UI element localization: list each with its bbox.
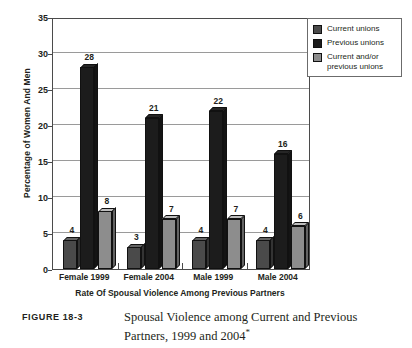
chart-legend: Current unionsPrevious unionsCurrent and… bbox=[307, 18, 402, 77]
figure-caption: FIGURE 18-3 Spousal Violence among Curre… bbox=[0, 310, 412, 348]
bar-value-label: 6 bbox=[287, 211, 313, 221]
y-axis-tick-mark bbox=[48, 270, 52, 271]
figure-container: Percentage of Women And Men 051015202530… bbox=[0, 0, 412, 348]
bar[interactable] bbox=[80, 67, 94, 269]
legend-item-label: Previous unions bbox=[327, 38, 384, 48]
bar[interactable] bbox=[63, 240, 77, 269]
x-axis-tick-mark bbox=[118, 263, 119, 269]
bar-front-face bbox=[145, 118, 159, 269]
bar[interactable] bbox=[192, 240, 206, 269]
bar-value-label: 21 bbox=[141, 103, 167, 113]
bar-front-face bbox=[227, 219, 241, 269]
y-axis-tick-label: 35 bbox=[26, 13, 48, 23]
bar[interactable] bbox=[127, 247, 141, 269]
legend-item[interactable]: Current unions bbox=[313, 24, 397, 34]
plot-area: 4288321742274166 bbox=[52, 18, 310, 270]
legend-swatch-icon bbox=[313, 53, 322, 62]
x-axis-category-labels: Female 1999Female 2004Male 1999Male 2004 bbox=[52, 272, 310, 286]
bar-value-label: 7 bbox=[223, 204, 249, 214]
bar-value-label: 8 bbox=[94, 196, 120, 206]
x-axis-category-label: Male 2004 bbox=[246, 272, 311, 282]
bar-front-face bbox=[192, 240, 206, 269]
bar-front-face bbox=[98, 211, 112, 269]
y-axis-tick-label: 25 bbox=[26, 85, 48, 95]
bar[interactable] bbox=[256, 240, 270, 269]
bar-front-face bbox=[274, 154, 288, 269]
bar-value-label: 22 bbox=[205, 96, 231, 106]
legend-swatch-icon bbox=[313, 39, 322, 48]
bar[interactable] bbox=[145, 118, 159, 269]
plot-inner: 4288321742274166 bbox=[53, 19, 309, 269]
bar-value-label: 28 bbox=[76, 52, 102, 62]
bar-front-face bbox=[256, 240, 270, 269]
bar[interactable] bbox=[162, 219, 176, 269]
bar-front-face bbox=[80, 67, 94, 269]
y-axis-tick-label: 30 bbox=[26, 49, 48, 59]
legend-item[interactable]: Current and/or previous unions bbox=[313, 52, 397, 71]
y-axis-tick-label: 10 bbox=[26, 193, 48, 203]
bar-side-face bbox=[241, 215, 245, 269]
y-axis-tick-label: 20 bbox=[26, 121, 48, 131]
figure-number-label: FIGURE 18-3 bbox=[22, 312, 83, 322]
legend-item-label: Current and/or previous unions bbox=[327, 52, 397, 71]
bar-side-face bbox=[112, 208, 116, 269]
x-axis-category-label: Male 1999 bbox=[181, 272, 246, 282]
bar[interactable] bbox=[274, 154, 288, 269]
bar-front-face bbox=[63, 240, 77, 269]
bar-front-face bbox=[162, 219, 176, 269]
bar-front-face bbox=[291, 226, 305, 269]
caption-line-2: Partners, 1999 and 2004 bbox=[124, 329, 246, 343]
x-axis-tick-mark bbox=[182, 263, 183, 269]
bar[interactable] bbox=[227, 219, 241, 269]
bar-value-label: 7 bbox=[158, 204, 184, 214]
x-axis-title: Rate Of Spousal Violence Among Previous … bbox=[30, 288, 330, 298]
legend-swatch-icon bbox=[313, 25, 322, 34]
bar-side-face bbox=[305, 222, 309, 269]
bar[interactable] bbox=[98, 211, 112, 269]
legend-item-label: Current unions bbox=[327, 24, 379, 34]
legend-item[interactable]: Previous unions bbox=[313, 38, 397, 48]
y-axis-tick-label: 0 bbox=[26, 265, 48, 275]
bar-front-face bbox=[209, 111, 223, 269]
x-axis-category-label: Female 1999 bbox=[52, 272, 117, 282]
caption-footnote-marker: * bbox=[246, 327, 251, 337]
chart-region: Percentage of Women And Men 051015202530… bbox=[0, 0, 412, 305]
bar-front-face bbox=[127, 247, 141, 269]
x-axis-tick-mark bbox=[247, 263, 248, 269]
bar-value-label: 16 bbox=[270, 139, 296, 149]
bar-side-face bbox=[176, 215, 180, 269]
y-axis-tick-label: 5 bbox=[26, 229, 48, 239]
caption-line-1: Spousal Violence among Current and Previ… bbox=[124, 310, 357, 324]
y-axis-tick-labels: 05101520253035 bbox=[24, 18, 48, 270]
x-axis-category-label: Female 2004 bbox=[117, 272, 182, 282]
bar[interactable] bbox=[209, 111, 223, 269]
figure-caption-text: Spousal Violence among Current and Previ… bbox=[124, 310, 394, 344]
y-axis-tick-label: 15 bbox=[26, 157, 48, 167]
bar[interactable] bbox=[291, 226, 305, 269]
